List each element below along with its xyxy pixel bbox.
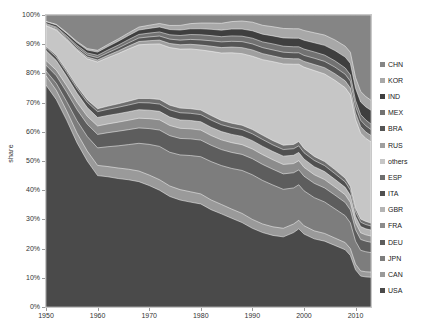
- x-tick-label: 1980: [181, 312, 221, 319]
- legend-item-esp[interactable]: ESP: [380, 169, 422, 185]
- legend-item-chn[interactable]: CHN: [380, 56, 422, 72]
- x-tick-label: 1950: [26, 312, 66, 319]
- legend: CHNKORINDMEXBRARUSothersESPITAGBRFRADEUJ…: [380, 56, 422, 299]
- legend-item-label: IND: [388, 93, 400, 100]
- legend-swatch-icon: [380, 94, 385, 99]
- legend-item-ita[interactable]: ITA: [380, 186, 422, 202]
- legend-item-label: GBR: [388, 206, 403, 213]
- legend-swatch-icon: [380, 191, 385, 196]
- legend-swatch-icon: [380, 126, 385, 131]
- legend-item-gbr[interactable]: GBR: [380, 202, 422, 218]
- legend-item-label: ITA: [388, 190, 398, 197]
- legend-item-deu[interactable]: DEU: [380, 234, 422, 250]
- y-tick-label: 10%: [2, 274, 40, 281]
- legend-item-label: KOR: [388, 77, 403, 84]
- y-axis-title: share: [7, 134, 14, 174]
- x-tick-label: 2010: [336, 312, 376, 319]
- x-tick-mark: [46, 308, 47, 311]
- x-tick-label: 2000: [284, 312, 324, 319]
- legend-item-label: others: [388, 158, 407, 165]
- x-tick-label: 1970: [129, 312, 169, 319]
- legend-item-label: FRA: [388, 222, 402, 229]
- legend-item-bra[interactable]: BRA: [380, 121, 422, 137]
- legend-item-mex[interactable]: MEX: [380, 105, 422, 121]
- legend-item-others[interactable]: others: [380, 153, 422, 169]
- legend-item-label: MEX: [388, 109, 403, 116]
- legend-item-rus[interactable]: RUS: [380, 137, 422, 153]
- x-tick-label: 1990: [232, 312, 272, 319]
- chart-figure: share 100%90%80%70%60%50%40%30%20%10%0% …: [0, 0, 422, 334]
- y-tick-label: 30%: [2, 215, 40, 222]
- legend-swatch-icon: [380, 240, 385, 245]
- y-tick-label: 70%: [2, 99, 40, 106]
- legend-swatch-icon: [380, 256, 385, 261]
- legend-item-label: BRA: [388, 125, 402, 132]
- legend-item-label: DEU: [388, 239, 403, 246]
- legend-swatch-icon: [380, 272, 385, 277]
- legend-item-kor[interactable]: KOR: [380, 72, 422, 88]
- legend-item-label: JPN: [388, 255, 401, 262]
- y-tick-label: 60%: [2, 128, 40, 135]
- legend-item-label: CAN: [388, 271, 403, 278]
- x-tick-mark: [201, 308, 202, 311]
- legend-swatch-icon: [380, 288, 385, 293]
- x-tick-label: 1960: [78, 312, 118, 319]
- y-tick-label: 20%: [2, 245, 40, 252]
- legend-swatch-icon: [380, 223, 385, 228]
- legend-item-ind[interactable]: IND: [380, 88, 422, 104]
- x-tick-mark: [252, 308, 253, 311]
- legend-item-usa[interactable]: USA: [380, 283, 422, 299]
- stacked-area-svg: [46, 15, 371, 307]
- legend-item-can[interactable]: CAN: [380, 266, 422, 282]
- legend-swatch-icon: [380, 62, 385, 67]
- y-tick-label: 0%: [2, 303, 40, 310]
- y-tick-label: 90%: [2, 40, 40, 47]
- y-tick-label: 100%: [2, 11, 40, 18]
- x-tick-mark: [98, 308, 99, 311]
- legend-swatch-icon: [380, 110, 385, 115]
- legend-item-label: ESP: [388, 174, 402, 181]
- y-tick-label: 80%: [2, 69, 40, 76]
- x-tick-mark: [149, 308, 150, 311]
- x-tick-mark: [304, 308, 305, 311]
- legend-item-fra[interactable]: FRA: [380, 218, 422, 234]
- y-tick-label: 40%: [2, 186, 40, 193]
- legend-item-label: RUS: [388, 142, 403, 149]
- legend-item-label: USA: [388, 287, 402, 294]
- legend-swatch-icon: [380, 143, 385, 148]
- y-tick-label: 50%: [2, 157, 40, 164]
- legend-item-label: CHN: [388, 61, 403, 68]
- legend-swatch-icon: [380, 175, 385, 180]
- x-tick-mark: [356, 308, 357, 311]
- legend-swatch-icon: [380, 207, 385, 212]
- plot-area: [45, 14, 372, 308]
- legend-item-jpn[interactable]: JPN: [380, 250, 422, 266]
- legend-swatch-icon: [380, 159, 385, 164]
- legend-swatch-icon: [380, 78, 385, 83]
